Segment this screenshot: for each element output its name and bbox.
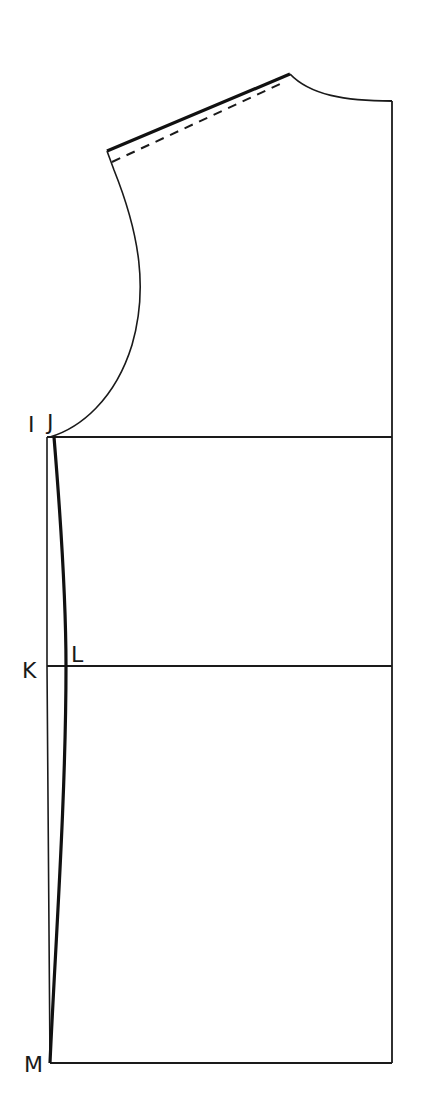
shoulder-seam-allowance-dashed bbox=[112, 84, 280, 162]
neckline-curve bbox=[290, 74, 392, 101]
label-m: M bbox=[24, 1052, 43, 1077]
label-l: L bbox=[71, 642, 84, 667]
side-guide-line bbox=[47, 437, 50, 1063]
label-i: I bbox=[28, 412, 35, 437]
side-seam-curve bbox=[50, 437, 66, 1063]
shoulder-seam-line bbox=[107, 74, 290, 151]
label-k: K bbox=[22, 658, 37, 683]
bodice-pattern-diagram: I J K L M bbox=[0, 0, 425, 1114]
armhole-curve bbox=[50, 151, 140, 437]
label-j: J bbox=[45, 410, 54, 435]
